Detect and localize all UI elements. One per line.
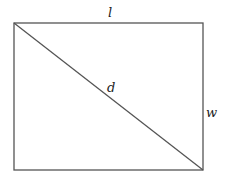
width-label: w <box>206 105 217 120</box>
length-label: l <box>108 5 112 20</box>
rectangle-diagram: l d w <box>0 0 226 180</box>
diagonal-line <box>14 23 203 170</box>
diagonal-label: d <box>107 80 115 95</box>
